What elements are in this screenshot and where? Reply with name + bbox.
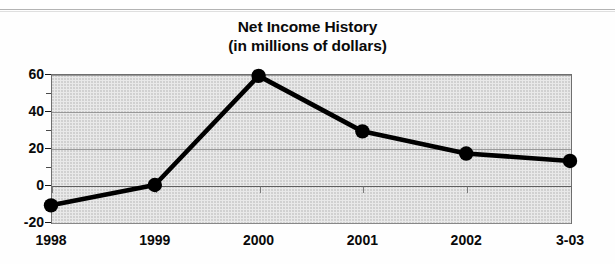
data-point-1998 [44, 198, 58, 212]
x-axis-label-1998: 1998 [35, 232, 66, 248]
y-axis-label-40: 40 [2, 103, 44, 119]
x-axis-label-2002: 2002 [451, 232, 482, 248]
x-axis-label-2001: 2001 [347, 232, 378, 248]
series-line-net-income [51, 76, 570, 206]
y-axis-label-20: 20 [2, 140, 44, 156]
data-point-3-03 [563, 154, 577, 168]
gridline--20 [52, 223, 571, 224]
chart-figure: Net Income History (in millions of dolla… [0, 0, 615, 264]
y-major-tick--20 [45, 222, 51, 223]
x-axis-label-2000: 2000 [243, 232, 274, 248]
data-point-2001 [355, 124, 369, 138]
y-axis-label--20: -20 [2, 214, 44, 230]
y-axis-label-60: 60 [2, 66, 44, 82]
x-axis-label-3-03: 3-03 [556, 232, 584, 248]
data-point-2000 [251, 69, 265, 83]
x-axis-label-1999: 1999 [139, 232, 170, 248]
chart-title: Net Income History [0, 18, 615, 37]
chart-title-block: Net Income History (in millions of dolla… [0, 18, 615, 56]
y-axis-labels: 6040200-20 [0, 0, 44, 264]
scan-artifact-rule-secondary [0, 11, 615, 12]
scan-artifact-rule [0, 9, 615, 10]
chart-subtitle: (in millions of dollars) [0, 37, 615, 56]
data-series-line [51, 74, 570, 222]
x-axis-labels: 199819992000200120023-03 [0, 232, 615, 254]
data-point-1999 [148, 178, 162, 192]
data-point-2002 [459, 146, 473, 160]
x-tick-3-03 [571, 186, 572, 193]
y-axis-label-0: 0 [2, 177, 44, 193]
